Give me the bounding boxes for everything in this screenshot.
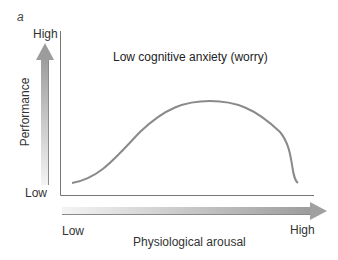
performance-curve	[72, 101, 298, 183]
chart-canvas	[0, 0, 338, 260]
x-axis-arrow-icon	[62, 202, 327, 220]
y-axis-arrow-icon	[36, 43, 54, 185]
